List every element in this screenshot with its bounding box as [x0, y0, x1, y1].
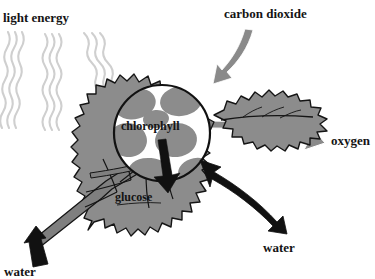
label-chlorophyll: chlorophyll — [121, 119, 180, 133]
label-oxygen: oxygen — [331, 133, 371, 148]
label-water-out: water — [263, 240, 295, 255]
label-light-energy: light energy — [3, 10, 70, 25]
diagram-canvas: chlorophyll glucose water water light en… — [0, 0, 375, 279]
label-carbon-dioxide: carbon dioxide — [224, 6, 307, 21]
photosynthesis-diagram: chlorophyll glucose water water light en… — [0, 0, 375, 279]
label-glucose: glucose — [115, 190, 153, 204]
label-water-in: water — [4, 264, 36, 279]
